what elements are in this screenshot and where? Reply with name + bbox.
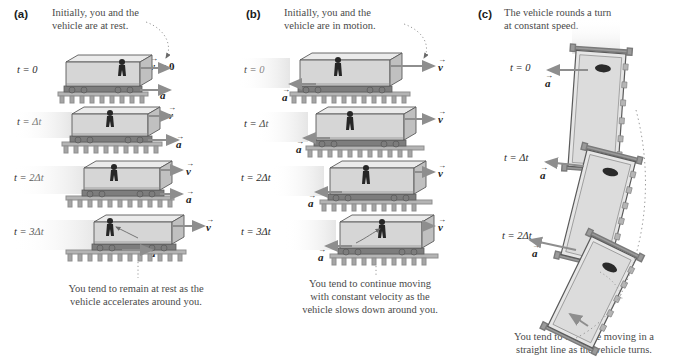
panel-c-bottom-line2: straight line as the vehicle turns.: [516, 344, 652, 355]
panel-a-time-label-0: t = 0: [17, 64, 38, 75]
panel-c: (c) The vehicle rounds a turn at constan…: [472, 0, 676, 359]
panel-c-person-1: [602, 166, 619, 178]
panel-c-velocity-symbol: v: [566, 309, 571, 321]
panel-b-accel-symbol-1: a: [296, 143, 302, 155]
panel-b-accel-symbol-2: a: [308, 197, 314, 209]
panel-b-velocity-symbol-0: v: [438, 61, 443, 73]
panel-c-rail-nubs-0: [617, 64, 629, 158]
panel-b-car-side-3: [422, 215, 434, 248]
panel-a-frame-1: [14, 107, 178, 153]
panel-a-person-0: [118, 59, 126, 76]
panel-b-person-3: [378, 219, 386, 238]
panel-b-bottom-caption: You tend to continue moving with constan…: [280, 277, 460, 316]
panel-c-car-inner-2: [553, 242, 631, 343]
panel-a-head-line2: vehicle are at rest.: [52, 20, 128, 31]
panel-c-frame-0: [562, 44, 633, 175]
panel-a-accel-label-2: →a: [186, 190, 194, 205]
panel-a-bottom-line1: You tend to remain at rest as the: [68, 283, 203, 294]
panel-b-car-top-2: [330, 161, 426, 168]
panel-c-car-body-1: [561, 150, 636, 267]
panel-b-track-3: [330, 254, 438, 265]
panel-b-bottom-line2: with constant velocity as the: [310, 291, 430, 302]
panel-a-person-1: [106, 110, 114, 127]
panel-a-velocity-symbol-0: v: [150, 60, 155, 72]
panel-c-bottom-line1: You tend to continue moving in a: [514, 331, 654, 342]
panel-c-time-label-1: t = Δt: [504, 152, 528, 163]
panel-a-accel-symbol-1: a: [176, 138, 182, 150]
panel-a-track-1: [62, 142, 162, 153]
panel-c-accel-arrow-1: [546, 162, 584, 166]
panel-a-velocity-label-1: →v: [168, 106, 176, 121]
panel-a-person-pointer: [116, 227, 138, 238]
panel-a-bogie-3: [92, 244, 176, 251]
panel-b-person-2: [362, 165, 370, 184]
panel-b-car-front-2: [330, 168, 414, 194]
panel-a-time-label-2: t = 2Δt: [14, 172, 44, 183]
panel-b-car-front-1: [316, 114, 404, 140]
panel-a-person-2: [110, 164, 118, 181]
panel-b-label: (b): [246, 8, 261, 20]
panel-b-time-label-2: t = 2Δt: [241, 172, 271, 183]
panel-a-car-front-3: [94, 222, 172, 244]
panel-c-artwork: [472, 0, 676, 359]
panel-a-bogie-1: [70, 136, 152, 143]
panel-b-bottom-line1: You tend to continue moving: [309, 278, 431, 289]
panel-a-velocity-label-3: →v: [206, 218, 214, 233]
panel-a-car-front-0: [66, 62, 140, 86]
panel-c-turn-path: [576, 110, 645, 338]
panel-a-track-3: [66, 250, 186, 261]
panel-b-accel-label-3: →a: [318, 248, 326, 263]
panel-b-accel-label-0: →a: [282, 88, 290, 103]
panel-b-head-line1: Initially, you and the: [284, 7, 371, 18]
panel-b-frame-1: [256, 107, 434, 157]
panel-b-bogie-2: [328, 194, 416, 201]
panel-a-velocity-zero-0: = 0: [160, 60, 175, 72]
panel-b-car-top-1: [316, 107, 416, 114]
panel-b-track-1: [306, 146, 424, 157]
panel-b-time-label-0: t = 0: [244, 64, 265, 75]
panel-b-accel-symbol-0: a: [282, 91, 288, 103]
panel-b-car-front-3: [340, 222, 422, 248]
panel-a-accel-label-1: →a: [176, 135, 184, 150]
panel-b-accel-label-2: →a: [308, 194, 316, 209]
panel-a-car-front-2: [84, 168, 160, 190]
panel-a-velocity-symbol-1: v: [168, 109, 173, 121]
panel-c-time-label-0: t = 0: [510, 62, 531, 73]
panel-b-car-side-1: [404, 107, 416, 140]
panel-b-velocity-label-3: →v: [438, 218, 446, 233]
panel-a-person-3: [106, 218, 114, 236]
panel-b-head-line2: vehicle are in motion.: [284, 20, 376, 31]
panel-a-velocity-label-2: →v: [186, 162, 194, 177]
panel-b-accel-label-1: →a: [296, 140, 304, 155]
panel-b-person-0: [334, 57, 342, 76]
panel-a-track-2: [66, 196, 174, 207]
panel-b-time-label-3: t = 3Δt: [241, 226, 271, 237]
panel-b-bottom-line3: vehicle slows down around you.: [302, 304, 438, 315]
panel-b-person-1: [346, 111, 354, 130]
panel-a-velocity-symbol-3: v: [206, 221, 211, 233]
panel-c-axles-0: [562, 44, 633, 175]
panel-b-frame-2: [272, 161, 434, 211]
panel-c-car-inner-1: [566, 155, 631, 262]
panel-a-time-label-1: t = Δt: [17, 116, 41, 127]
panel-c-accel-label-0: →a: [545, 74, 553, 89]
panel-c-accel-symbol-2: a: [532, 247, 538, 259]
panel-b-car-top-0: [300, 53, 402, 60]
panel-a-head-caption: Initially, you and the vehicle are at re…: [52, 7, 172, 32]
panel-a-car-side-3: [172, 215, 184, 244]
panel-b-head-caption: Initially, you and the vehicle are in mo…: [284, 7, 410, 32]
panel-b-frame-0: [238, 53, 434, 103]
panel-a-car-top-0: [66, 55, 152, 62]
panel-b-motionblur-3: [284, 220, 336, 250]
panel-b-motionblur-2: [272, 166, 324, 196]
panel-c-head-caption: The vehicle rounds a turn at constant sp…: [504, 7, 644, 32]
panel-b-car-top-3: [340, 215, 434, 222]
panel-b-velocity-symbol-1: v: [438, 113, 443, 125]
panel-b-person-pointer: [356, 229, 380, 243]
panel-b-track-2: [320, 200, 432, 211]
panel-a-car-side-2: [160, 161, 172, 190]
panel-c-velocity-label: →v: [566, 306, 574, 321]
panel-a-car-side-1: [148, 107, 160, 136]
panel-c-person-pointer: [600, 272, 622, 300]
panel-b-velocity-label-0: →v: [438, 58, 446, 73]
